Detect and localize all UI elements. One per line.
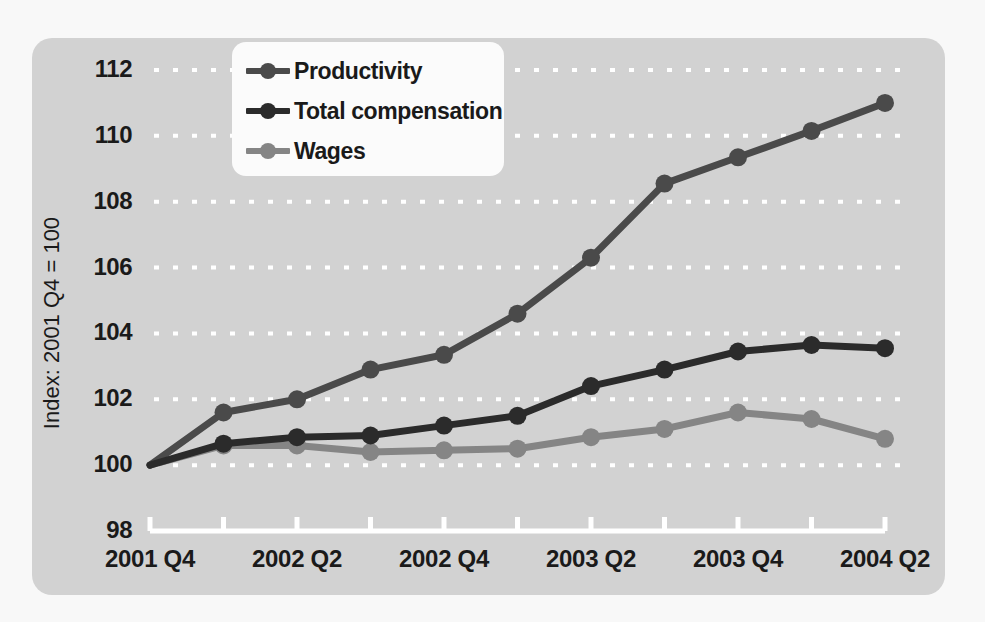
data-point [803,122,821,140]
data-point [656,175,674,193]
data-point [435,346,453,364]
data-point [729,343,747,361]
y-tick-label: 108 [72,187,132,215]
legend-item[interactable]: Wages [246,136,365,166]
data-point [729,404,747,422]
data-point [362,443,380,461]
data-point [876,339,894,357]
data-point [509,407,527,425]
data-point [362,427,380,445]
legend-marker-icon [246,136,290,166]
data-point [803,336,821,354]
data-point [215,404,233,422]
y-tick-label: 112 [72,55,132,83]
data-point [288,428,306,446]
y-tick-label: 102 [72,384,132,412]
y-tick-label: 106 [72,253,132,281]
data-point [288,390,306,408]
x-tick-label: 2004 Q2 [805,545,965,573]
legend-item-label: Total compensation [294,98,502,125]
data-point [582,377,600,395]
data-point [876,430,894,448]
y-tick-label: 104 [72,318,132,346]
legend-marker-icon [246,96,290,126]
legend-item[interactable]: Total compensation [246,96,502,126]
x-tick-label: 2002 Q4 [364,545,524,573]
data-point [582,249,600,267]
data-point [803,410,821,428]
x-tick-label: 2003 Q4 [658,545,818,573]
x-tick-label: 2003 Q2 [511,545,671,573]
data-point [509,305,527,323]
legend-item[interactable]: Productivity [246,56,422,86]
data-point [435,417,453,435]
y-tick-label: 100 [72,450,132,478]
y-tick-label: 98 [72,516,132,544]
data-point [656,420,674,438]
x-tick-label: 2001 Q4 [70,545,230,573]
legend-item-label: Wages [294,138,365,165]
data-point [582,428,600,446]
data-point [215,435,233,453]
x-tick-label: 2002 Q2 [217,545,377,573]
data-point [435,441,453,459]
data-point [729,148,747,166]
y-tick-label: 110 [72,121,132,149]
axis-lines [150,517,885,531]
data-point [362,361,380,379]
legend-item-label: Productivity [294,58,422,85]
legend-marker-icon [246,56,290,86]
data-point [509,440,527,458]
chart-legend: ProductivityTotal compensationWages [232,42,504,176]
data-point [876,94,894,112]
data-point [656,361,674,379]
